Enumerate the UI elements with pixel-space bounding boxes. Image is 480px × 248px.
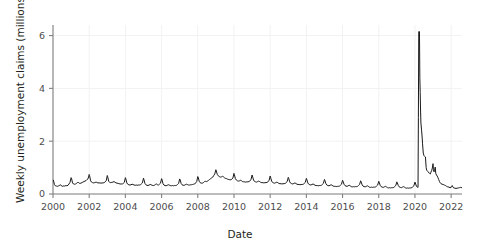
svg-text:2002: 2002: [77, 201, 101, 212]
svg-text:2008: 2008: [186, 201, 210, 212]
svg-text:2022: 2022: [439, 201, 463, 212]
svg-text:2018: 2018: [367, 201, 391, 212]
svg-text:2: 2: [39, 136, 45, 147]
svg-text:2010: 2010: [222, 201, 246, 212]
svg-text:4: 4: [39, 83, 45, 94]
svg-text:2000: 2000: [41, 201, 65, 212]
data-series-line: [53, 32, 461, 189]
svg-text:6: 6: [39, 30, 45, 41]
x-axis-label: Date: [0, 228, 480, 240]
tick-marks: [49, 36, 451, 198]
svg-text:2016: 2016: [330, 201, 354, 212]
svg-text:2012: 2012: [258, 201, 282, 212]
svg-text:2006: 2006: [149, 201, 173, 212]
y-axis-label-wrap: Weekly unemployment claims (millions): [0, 0, 22, 210]
svg-text:2020: 2020: [403, 201, 427, 212]
svg-text:2014: 2014: [294, 201, 318, 212]
axis-spines: [53, 25, 462, 194]
y-axis-label: Weekly unemployment claims (millions): [14, 0, 26, 203]
svg-text:0: 0: [39, 188, 45, 199]
unemployment-claims-chart: 0246200020022004200620082010201220142016…: [0, 0, 480, 248]
svg-text:2004: 2004: [113, 201, 137, 212]
gridlines: [53, 25, 462, 194]
chart-plot-area: 0246200020022004200620082010201220142016…: [0, 0, 480, 248]
tick-labels: 0246200020022004200620082010201220142016…: [39, 30, 463, 212]
